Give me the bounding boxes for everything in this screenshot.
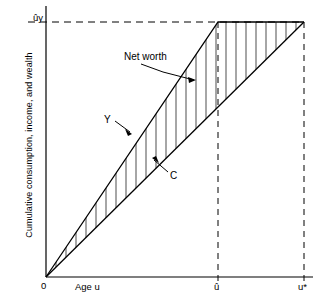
y-axis-tick-label-uy: ûy	[33, 12, 43, 23]
series-line-consumption-C	[46, 22, 304, 277]
consumption-label-arrowhead	[152, 156, 159, 163]
chart-canvas	[0, 0, 320, 302]
x-axis-tick-label-origin: 0	[41, 280, 46, 291]
annotation-income-Y: Y	[104, 114, 111, 125]
life-cycle-chart: Cumulative consumption, income, and weal…	[0, 0, 320, 302]
net-worth-arrowhead	[188, 77, 196, 83]
x-axis-title: Age u	[75, 281, 100, 292]
annotation-net-worth: Net worth	[124, 51, 167, 62]
x-axis-tick-label-ustar: u*	[298, 281, 307, 292]
net-worth-hatch-region	[56, 0, 296, 302]
annotation-consumption-C: C	[170, 170, 177, 181]
income-label-arrowhead	[125, 129, 132, 136]
x-axis-tick-label-uhat: û	[214, 281, 219, 292]
income-label-leader-line	[115, 121, 130, 132]
y-axis-title: Cumulative consumption, income, and weal…	[24, 20, 34, 270]
